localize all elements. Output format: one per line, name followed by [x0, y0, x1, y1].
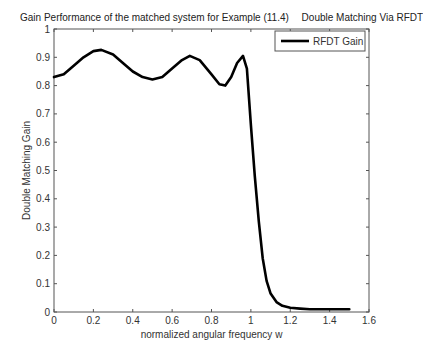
- y-tick-label: 0.5: [36, 165, 50, 176]
- y-tick-label: 1: [44, 24, 50, 35]
- y-tick-label: 0.9: [36, 52, 50, 63]
- y-tick-label: 0.4: [36, 193, 50, 204]
- x-tick-label: 1: [248, 315, 254, 326]
- y-tick-label: 0: [44, 307, 50, 318]
- x-tick-label: 0: [51, 315, 57, 326]
- x-tick-label: 0.8: [205, 315, 219, 326]
- x-tick-label: 0.2: [86, 315, 100, 326]
- legend: RFDT Gain: [275, 31, 365, 51]
- legend-label: RFDT Gain: [313, 36, 363, 47]
- series-line: [54, 50, 349, 309]
- y-tick-label: 0.1: [36, 278, 50, 289]
- data-series: [54, 50, 349, 309]
- y-tick-label: 0.6: [36, 137, 50, 148]
- y-axis-label: Double Matching Gain: [21, 121, 32, 220]
- x-tick-label: 1.2: [283, 315, 297, 326]
- y-tick-label: 0.8: [36, 80, 50, 91]
- x-axis-label: normalized angular frequency w: [141, 329, 284, 340]
- y-tick-label: 0.3: [36, 222, 50, 233]
- x-tick-label: 0.4: [126, 315, 140, 326]
- y-tick-label: 0.2: [36, 250, 50, 261]
- x-tick-label: 1.6: [362, 315, 376, 326]
- plot-frame: [54, 29, 369, 312]
- y-tick-label: 0.7: [36, 108, 50, 119]
- x-tick-label: 1.4: [323, 315, 337, 326]
- x-tick-label: 0.6: [165, 315, 179, 326]
- plot-axes: [54, 29, 369, 312]
